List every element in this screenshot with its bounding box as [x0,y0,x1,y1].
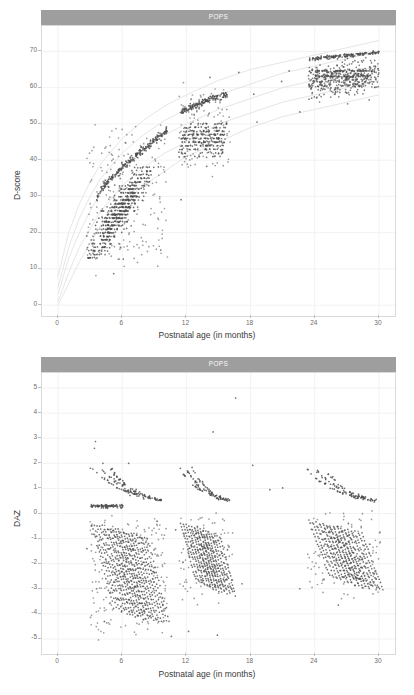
y-tick-mark [38,563,41,564]
y-tick-mark [38,613,41,614]
y-tick-mark [38,159,41,160]
gridlines [42,373,395,654]
y-tick-label: -5 [17,634,37,641]
scatter-canvas-daz [42,373,395,654]
figure-root: POPS D-score Postnatal age (in months) 0… [0,0,414,695]
x-tick-mark [378,653,379,656]
y-tick-label: 1 [17,484,37,491]
y-tick-mark [38,487,41,488]
x-axis-title-daz: Postnatal age (in months) [0,669,414,679]
x-tick-label: 18 [238,320,262,327]
y-tick-label: 70 [17,47,37,54]
y-tick-label: 30 [17,192,37,199]
y-tick-mark [38,588,41,589]
x-tick-mark [121,653,122,656]
x-tick-label: 18 [238,658,262,665]
y-tick-mark [38,123,41,124]
y-tick-label: 50 [17,119,37,126]
x-tick-label: 0 [45,320,69,327]
y-tick-label: -1 [17,534,37,541]
y-tick-mark [38,195,41,196]
y-tick-label: 5 [17,384,37,391]
x-tick-mark [185,653,186,656]
y-tick-mark [38,513,41,514]
x-tick-mark [57,315,58,318]
y-tick-label: 60 [17,83,37,90]
y-tick-mark [38,50,41,51]
x-axis-title-dscore: Postnatal age (in months) [0,330,414,340]
plot-area-daz [41,372,396,655]
y-tick-label: 0 [17,509,37,516]
x-tick-label: 30 [366,320,390,327]
x-tick-mark [57,653,58,656]
y-tick-mark [38,638,41,639]
x-tick-label: 30 [366,658,390,665]
plot-area-dscore [41,25,396,317]
x-tick-mark [314,315,315,318]
x-tick-label: 6 [109,320,133,327]
y-tick-label: -4 [17,609,37,616]
y-tick-label: 4 [17,409,37,416]
x-tick-label: 24 [302,320,326,327]
y-tick-label: 3 [17,434,37,441]
y-tick-label: 10 [17,264,37,271]
facet-strip-daz: POPS [41,357,396,372]
x-tick-label: 24 [302,658,326,665]
x-tick-label: 12 [173,320,197,327]
x-tick-mark [121,315,122,318]
y-tick-label: 40 [17,156,37,163]
facet-strip-dscore: POPS [41,10,396,25]
x-tick-mark [250,653,251,656]
y-tick-mark [38,87,41,88]
x-tick-mark [185,315,186,318]
y-tick-mark [38,412,41,413]
y-tick-mark [38,387,41,388]
x-tick-label: 12 [173,658,197,665]
x-tick-mark [250,315,251,318]
y-tick-mark [38,538,41,539]
scatter-canvas-dscore [42,26,395,316]
y-tick-mark [38,268,41,269]
y-tick-label: -3 [17,584,37,591]
x-tick-mark [378,315,379,318]
gridlines [42,26,395,316]
data-points [86,397,384,641]
x-tick-label: 0 [45,658,69,665]
facet-strip-label: POPS [209,361,229,368]
data-points [86,50,380,276]
y-tick-label: 2 [17,459,37,466]
facet-strip-label: POPS [209,14,229,21]
y-tick-mark [38,304,41,305]
y-tick-label: 20 [17,228,37,235]
y-tick-mark [38,437,41,438]
y-tick-mark [38,232,41,233]
y-tick-label: -2 [17,559,37,566]
y-tick-label: 0 [17,301,37,308]
y-tick-mark [38,462,41,463]
panel-daz: POPS DAZ Postnatal age (in months) -5-4-… [0,347,414,695]
panel-dscore: POPS D-score Postnatal age (in months) 0… [0,0,414,348]
x-tick-mark [314,653,315,656]
x-tick-label: 6 [109,658,133,665]
